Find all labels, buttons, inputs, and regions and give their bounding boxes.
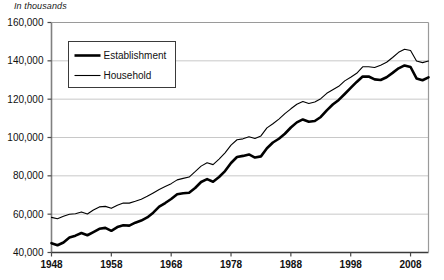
y-axis	[48, 23, 52, 253]
y-tick-label: 160,000	[7, 17, 44, 28]
chart-container: In thousands 160,000140,000120,000100,00…	[0, 0, 444, 280]
x-tick-label: 2008	[399, 259, 422, 270]
y-tick-label: 60,000	[13, 209, 44, 220]
legend-label-establishment: Establishment	[104, 50, 167, 61]
series-line-establishment	[52, 65, 429, 245]
x-tick-label: 1958	[100, 259, 123, 270]
line-chart-svg: 160,000140,000120,000100,00080,00060,000…	[0, 0, 444, 280]
legend: EstablishmentHousehold	[69, 42, 176, 88]
x-tick-label: 1948	[40, 259, 63, 270]
x-tick-label: 1998	[340, 259, 363, 270]
y-tick-label: 100,000	[7, 132, 44, 143]
y-tick-label: 120,000	[7, 94, 44, 105]
x-tick-label: 1968	[160, 259, 183, 270]
x-tick-labels: 1948195819681978198819982008	[40, 259, 422, 270]
y-tick-label: 80,000	[13, 170, 44, 181]
x-tick-label: 1978	[220, 259, 243, 270]
y-tick-label: 40,000	[13, 247, 44, 258]
x-axis	[52, 253, 429, 257]
y-tick-labels: 160,000140,000120,000100,00080,00060,000…	[7, 17, 44, 258]
x-tick-label: 1988	[280, 259, 303, 270]
legend-label-household: Household	[104, 70, 152, 81]
y-tick-label: 140,000	[7, 55, 44, 66]
